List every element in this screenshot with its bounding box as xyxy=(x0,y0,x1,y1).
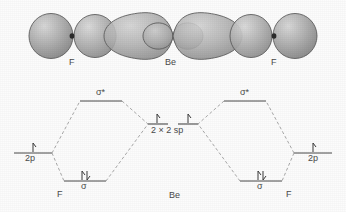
electron-arrow-right-sigma-down xyxy=(263,171,266,180)
mo-label-left-sigma: σ xyxy=(81,182,87,191)
correlation-line-right-sigma-to-sp xyxy=(198,124,240,181)
correlation-line-right-2p-to-sigma-star xyxy=(266,101,294,153)
electron-arrow-left-sigma-up xyxy=(82,171,85,180)
fluorine-right-outer-lobe xyxy=(273,14,317,59)
electron-arrow-left-sigma-down xyxy=(87,171,90,180)
electron-arrow-left-2p-up xyxy=(33,143,36,152)
correlation-line-right-sigma-star-to-sp xyxy=(198,101,224,124)
overlap-label-fluorine-left: F xyxy=(69,58,75,67)
fluorine-left-outer-lobe xyxy=(29,14,73,59)
electron-arrow-center-sp-right-up xyxy=(188,114,191,123)
figure-canvas xyxy=(0,0,346,212)
overlap-label-fluorine-right: F xyxy=(271,58,277,67)
mo-label-right-sigma: σ xyxy=(257,182,263,191)
mo-label-left-2p: 2p xyxy=(25,154,35,163)
beryllium-sp-left-minor-lobe xyxy=(143,23,173,49)
mo-atom-label-fluorine-right: F xyxy=(286,190,292,199)
mo-atom-label-fluorine-left: F xyxy=(57,190,63,199)
fluorine-right-inner-lobe xyxy=(230,15,272,58)
correlation-line-right-2p-to-sigma xyxy=(282,153,294,181)
overlap-label-beryllium: Be xyxy=(165,58,176,67)
mo-energy-level-diagram xyxy=(14,101,332,181)
mo-label-right-2p: 2p xyxy=(308,154,318,163)
electron-arrow-right-sigma-up xyxy=(258,171,261,180)
orbital-overlap-diagram xyxy=(29,13,317,60)
mo-label-right-sigma-star: σ* xyxy=(240,88,249,97)
mo-atom-label-beryllium: Be xyxy=(169,191,180,200)
correlation-line-left-sigma-to-sp xyxy=(106,124,148,181)
fluorine-right-nucleus-dot xyxy=(272,33,277,39)
fluorine-left-nucleus-dot xyxy=(70,33,75,39)
electron-arrow-right-2p-up xyxy=(313,143,316,152)
electron-arrow-center-sp-left-up xyxy=(157,114,160,123)
correlation-line-left-sigma-star-to-sp xyxy=(122,101,148,124)
mo-label-center-sp: 2 × 2 sp xyxy=(151,126,183,135)
bef2-molecular-orbital-figure: F Be F 2p σ* σ 2 × 2 sp σ* σ 2p F Be F xyxy=(0,0,346,212)
correlation-line-left-2p-to-sigma-star xyxy=(52,101,80,153)
mo-label-left-sigma-star: σ* xyxy=(96,88,105,97)
correlation-line-left-2p-to-sigma xyxy=(52,153,64,181)
